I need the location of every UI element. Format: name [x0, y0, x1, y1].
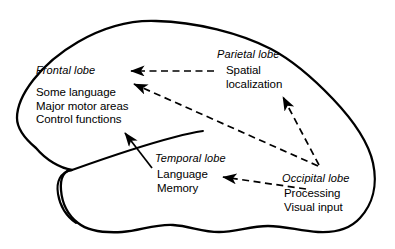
lobe-name-occipital: Occipital lobe	[282, 172, 349, 185]
lobe-label-occipital: Occipital lobe Processing Visual input	[282, 172, 349, 214]
lobe-function-item: Some language	[36, 86, 128, 100]
lobe-function-item: Spatial	[226, 64, 282, 78]
lobe-functions-parietal: Spatial localization	[217, 64, 282, 91]
lobe-function-item: Control functions	[36, 113, 128, 127]
lobe-functions-frontal: Some language Major motor areas Control …	[36, 86, 128, 127]
lobe-functions-temporal: Language Memory	[155, 168, 226, 195]
lobe-function-item: Processing	[284, 187, 349, 201]
brain-lobes-diagram: Frontal lobe Some language Major motor a…	[0, 0, 395, 249]
lobe-function-item: Memory	[157, 182, 226, 196]
lobe-name-frontal: Frontal lobe	[36, 64, 128, 77]
lobe-function-item: localization	[226, 78, 282, 92]
lobe-function-item: Visual input	[284, 201, 349, 215]
lobe-label-parietal: Parietal lobe Spatial localization	[217, 48, 282, 91]
lobe-function-item: Language	[157, 168, 226, 182]
lobe-name-parietal: Parietal lobe	[217, 48, 282, 61]
lobe-functions-occipital: Processing Visual input	[282, 187, 349, 214]
lobe-label-temporal: Temporal lobe Language Memory	[155, 152, 226, 195]
lobe-label-frontal: Frontal lobe Some language Major motor a…	[36, 64, 128, 127]
lobe-name-temporal: Temporal lobe	[155, 152, 226, 165]
lobe-function-item: Major motor areas	[36, 100, 128, 114]
